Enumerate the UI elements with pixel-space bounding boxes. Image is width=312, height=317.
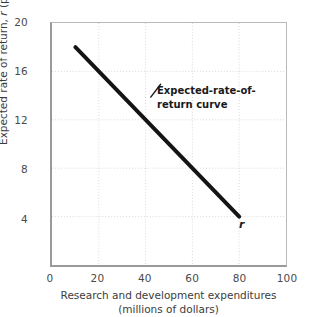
y-axis-title-prefix: Expected rate of return, bbox=[0, 16, 9, 145]
x-axis-tick-label: 60 bbox=[185, 272, 199, 284]
curve-annotation-line2: return curve bbox=[157, 98, 256, 112]
curve-annotation-line1: Expected-rate-of- bbox=[157, 84, 256, 98]
x-axis-title-line1: Research and development expenditures bbox=[50, 288, 287, 302]
x-axis-title-line2: (millions of dollars) bbox=[50, 302, 287, 316]
y-axis-tick-label: 12 bbox=[14, 114, 28, 126]
curve-endpoint-label: r bbox=[239, 218, 244, 231]
curve-annotation: Expected-rate-of- return curve bbox=[157, 84, 256, 111]
curve-line bbox=[75, 47, 239, 216]
x-axis-tick-label: 0 bbox=[47, 272, 54, 284]
y-axis-title-suffix: (percent) bbox=[0, 0, 9, 11]
x-axis-tick-label: 40 bbox=[138, 272, 152, 284]
x-axis-tick-label: 20 bbox=[91, 272, 105, 284]
y-axis-tick-label: 16 bbox=[14, 65, 28, 77]
plot-area bbox=[50, 22, 287, 267]
expected-rate-of-return-chart: 20 16 12 8 4 0 20 40 60 80 100 Expected … bbox=[0, 0, 312, 317]
y-axis-tick-label: 20 bbox=[14, 16, 28, 28]
x-axis-title: Research and development expenditures (m… bbox=[50, 288, 287, 316]
expected-rate-of-return-curve bbox=[52, 23, 286, 265]
y-axis-tick-label: 4 bbox=[21, 213, 28, 225]
y-axis-title: Expected rate of return, r (percent) bbox=[0, 0, 9, 145]
y-axis-tick-label: 8 bbox=[21, 163, 28, 175]
y-axis-title-variable: r bbox=[0, 11, 9, 15]
x-axis-tick-label: 80 bbox=[233, 272, 247, 284]
x-axis-tick-label: 100 bbox=[277, 272, 298, 284]
